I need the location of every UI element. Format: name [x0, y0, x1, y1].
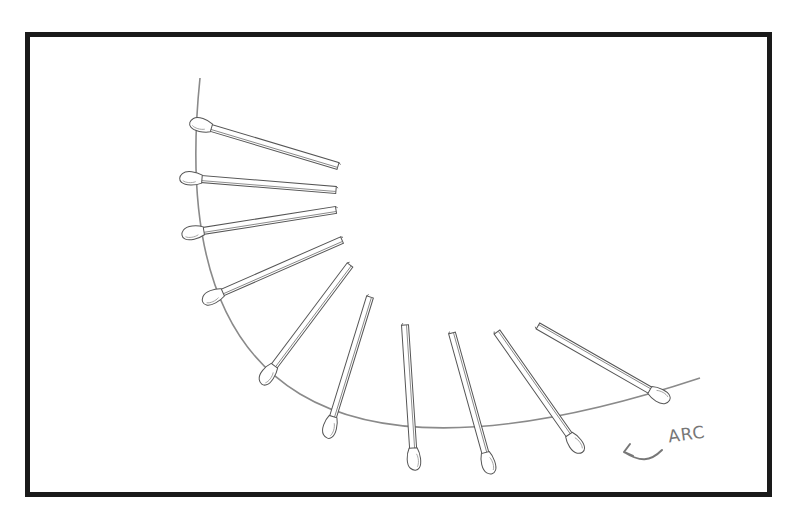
- match-head-icon: [200, 286, 226, 307]
- match-head-icon: [479, 451, 498, 476]
- match-head-icon: [188, 115, 213, 134]
- matchstick: [181, 203, 339, 241]
- matchstick: [320, 293, 377, 440]
- match-head-icon: [181, 224, 205, 241]
- match-head-icon: [320, 415, 339, 440]
- matchstick: [398, 323, 421, 471]
- diagram-canvas: ARC: [0, 0, 795, 519]
- matchstick: [188, 115, 342, 173]
- matchstick: [533, 319, 673, 407]
- match-head-icon: [179, 171, 202, 186]
- matchsticks-group: [179, 115, 672, 475]
- matchstick: [445, 329, 498, 475]
- match-head-icon: [406, 448, 421, 471]
- matchstick: [256, 259, 357, 387]
- arc-pointer-arrow-icon: [624, 444, 662, 459]
- matchstick: [179, 171, 338, 197]
